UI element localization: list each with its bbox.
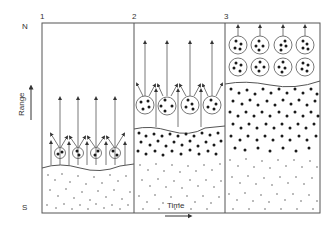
panel2-small-dots [138, 163, 221, 209]
panel3-large-dots [229, 88, 320, 153]
panel3-group-dots [233, 40, 310, 74]
panel2-large-dots [137, 132, 223, 157]
panel1-boundary [42, 164, 134, 171]
diagram-frame [42, 23, 320, 213]
panel3-boundary [225, 81, 320, 87]
panel2-boundary [134, 126, 225, 133]
range-time-diagram [0, 0, 331, 227]
panel1-small-dots [46, 173, 130, 209]
panel2-group-dots [140, 99, 218, 113]
panel1-migration [51, 98, 125, 165]
panel2-migration [136, 42, 222, 127]
panel3-small-dots [228, 158, 317, 209]
